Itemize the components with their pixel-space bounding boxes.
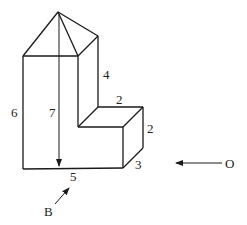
label-6: 6: [11, 105, 18, 120]
pyramid-roof: [23, 12, 98, 56]
solid-diagram: 6 7 4 2 2 3 5 B O: [0, 0, 247, 225]
label-o: O: [225, 156, 234, 171]
step-block: [23, 107, 143, 169]
label-7: 7: [49, 105, 56, 120]
label-4: 4: [103, 67, 110, 82]
label-5: 5: [70, 169, 77, 184]
view-b-arrow: [55, 188, 69, 204]
label-2-top: 2: [116, 92, 123, 107]
label-3: 3: [135, 157, 142, 172]
label-2-side: 2: [147, 121, 154, 136]
label-b: B: [44, 204, 53, 219]
